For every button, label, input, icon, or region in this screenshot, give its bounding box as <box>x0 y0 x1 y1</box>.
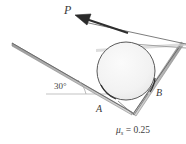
force-arrow-shaft <box>86 19 128 33</box>
contact-point-label-b: B <box>156 88 162 98</box>
equals-sign: = <box>123 125 133 135</box>
contact-point-label-a: A <box>96 104 102 114</box>
incline-angle-label: 30° <box>54 82 67 91</box>
cable-line <box>84 22 186 44</box>
force-label-P: P <box>64 4 71 16</box>
statics-figure: P A B 30° μs = 0.25 <box>0 0 186 144</box>
friction-value: 0.25 <box>133 125 150 135</box>
figure-canvas <box>0 0 186 144</box>
friction-coefficient-label: μs = 0.25 <box>116 126 150 136</box>
